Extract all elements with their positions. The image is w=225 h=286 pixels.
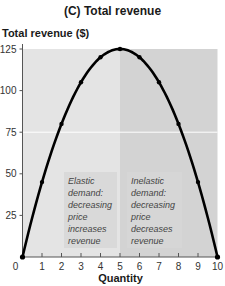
x-axis-label: Quantity [0, 272, 225, 284]
data-point [79, 80, 83, 84]
inelastic-line-6: revenue [131, 235, 178, 247]
elastic-line-2: demand: [68, 187, 113, 199]
data-point [98, 55, 102, 59]
x-tick-label: 6 [137, 261, 143, 272]
x-tick-label: 7 [156, 261, 162, 272]
inelastic-line-2: demand: [131, 187, 178, 199]
y-tick-label: 100 [0, 85, 17, 96]
data-point [157, 80, 161, 84]
inelastic-line-3: decreasing [131, 199, 178, 211]
inelastic-annotation: Inelastic demand: decreasing price decre… [127, 172, 182, 248]
data-point [137, 55, 141, 59]
elastic-annotation: Elastic demand: decreasing price increas… [64, 172, 117, 248]
data-point [176, 122, 180, 126]
inelastic-line-5: decreases [131, 223, 178, 235]
elastic-line-5: increases [68, 223, 113, 235]
x-tick-label: 9 [195, 261, 201, 272]
y-tick-label: 50 [5, 168, 17, 179]
data-point [20, 254, 25, 259]
x-tick-label: 1 [39, 261, 45, 272]
x-tick-label: 8 [176, 261, 182, 272]
elastic-line-4: price [68, 211, 113, 223]
elastic-line-3: decreasing [68, 199, 113, 211]
x-tick-label: 3 [78, 261, 84, 272]
x-tick-label: 5 [117, 261, 123, 272]
inelastic-line-1: Inelastic [131, 175, 178, 187]
y-tick-label: 125 [0, 44, 17, 55]
y-tick-label: 75 [5, 127, 17, 138]
x-tick-label: 0 [13, 261, 19, 272]
data-point [196, 180, 200, 184]
inelastic-line-4: price [131, 211, 178, 223]
data-point [59, 122, 63, 126]
data-point [215, 254, 220, 259]
y-tick-label: 25 [5, 210, 17, 221]
x-tick-label: 2 [59, 261, 65, 272]
x-tick-label: 10 [212, 261, 224, 272]
data-point [40, 180, 44, 184]
elastic-line-1: Elastic [68, 175, 113, 187]
data-point [118, 47, 122, 51]
elastic-line-6: revenue [68, 235, 113, 247]
x-tick-label: 4 [98, 261, 104, 272]
